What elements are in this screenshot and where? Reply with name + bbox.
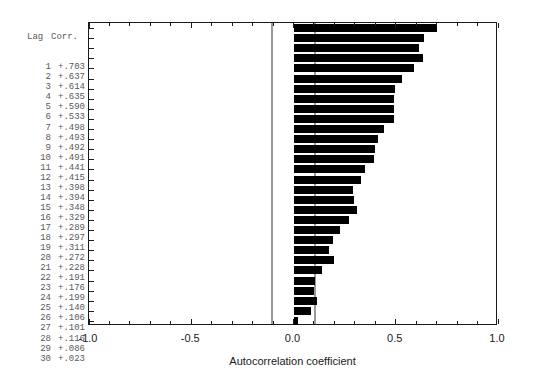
bar-lag-23 <box>294 246 330 254</box>
y-tick <box>89 220 94 221</box>
x-tick-bottom <box>89 319 90 324</box>
y-tick <box>89 38 94 39</box>
x-tick-top <box>129 23 130 26</box>
cell-lag: 19 <box>29 243 51 253</box>
cell-corr: +.498 <box>51 123 85 133</box>
table-row: 4+.635 <box>0 92 88 102</box>
cell-corr: +.106 <box>51 313 85 323</box>
y-tick <box>89 291 94 292</box>
cell-lag: 23 <box>29 283 51 293</box>
x-tick-top <box>395 23 396 28</box>
x-tick-top <box>211 23 212 26</box>
cell-lag: 24 <box>29 293 51 303</box>
x-tick-bottom <box>477 321 478 324</box>
y-tick <box>89 109 94 110</box>
x-tick-bottom <box>252 321 253 324</box>
bar-lag-19 <box>294 206 358 214</box>
y-tick <box>89 48 94 49</box>
cell-corr: +.272 <box>51 253 85 263</box>
x-tick-bottom <box>354 321 355 324</box>
x-tick-top <box>293 23 294 28</box>
column-header-lag: Lag <box>25 32 49 42</box>
x-axis-title: Autocorrelation coefficient <box>88 355 497 367</box>
y-tick <box>89 230 94 231</box>
bar-lag-27 <box>294 287 315 295</box>
table-row: 21+.228 <box>0 263 88 273</box>
plot-area <box>89 23 496 324</box>
y-tick <box>89 119 94 120</box>
table-row: 30+.023 <box>0 354 88 364</box>
cell-corr: +.614 <box>51 82 85 92</box>
bar-lag-9 <box>294 105 395 113</box>
cell-corr: +.703 <box>51 62 85 72</box>
table-row: 20+.272 <box>0 253 88 263</box>
bar-lag-24 <box>294 256 335 264</box>
cell-corr: +.191 <box>51 273 85 283</box>
bar-lag-15 <box>294 165 365 173</box>
x-tick-top <box>191 23 192 28</box>
cell-corr: +.533 <box>51 112 85 122</box>
y-tick <box>89 240 94 241</box>
y-tick <box>89 149 94 150</box>
cell-lag: 13 <box>29 183 51 193</box>
y-tick <box>89 210 94 211</box>
y-tick <box>89 89 94 90</box>
y-tick <box>89 180 94 181</box>
table-row: 17+.289 <box>0 223 88 233</box>
table-row: 7+.498 <box>0 123 88 133</box>
table-row: 28+.116 <box>0 334 88 344</box>
cell-lag: 11 <box>29 163 51 173</box>
bar-lag-4 <box>294 54 424 62</box>
cell-corr: +.590 <box>51 102 85 112</box>
table-row: 18+.297 <box>0 233 88 243</box>
x-tick-top <box>313 23 314 26</box>
x-tick-label: -1.0 <box>79 332 98 344</box>
cell-corr: +.491 <box>51 153 85 163</box>
x-tick-bottom <box>334 321 335 324</box>
x-tick-top <box>252 23 253 26</box>
x-tick-bottom <box>375 321 376 324</box>
y-tick <box>89 129 94 130</box>
x-tick-bottom <box>395 319 396 324</box>
x-tick-top <box>354 23 355 26</box>
cell-lag: 14 <box>29 193 51 203</box>
x-tick-label: 0.0 <box>285 332 300 344</box>
cell-lag: 1 <box>29 62 51 72</box>
cell-corr: +.086 <box>51 344 85 354</box>
cell-corr: +.329 <box>51 213 85 223</box>
y-tick <box>89 281 94 282</box>
x-tick-bottom <box>457 321 458 324</box>
y-tick <box>89 250 94 251</box>
y-tick <box>89 79 94 80</box>
bar-lag-3 <box>294 44 420 52</box>
cell-lag: 7 <box>29 123 51 133</box>
x-tick-bottom <box>191 319 192 324</box>
x-tick-bottom <box>436 321 437 324</box>
x-tick-top <box>375 23 376 26</box>
cell-corr: +.228 <box>51 263 85 273</box>
table-row: 24+.199 <box>0 293 88 303</box>
x-tick-top <box>457 23 458 26</box>
bar-lag-18 <box>294 196 355 204</box>
cell-corr: +.140 <box>51 303 85 313</box>
x-tick-bottom <box>211 321 212 324</box>
x-tick-bottom <box>498 319 499 324</box>
cell-lag: 8 <box>29 133 51 143</box>
table-row: 25+.140 <box>0 303 88 313</box>
bar-lag-26 <box>294 277 316 285</box>
y-tick <box>89 190 94 191</box>
x-tick-top <box>150 23 151 26</box>
cell-corr: +.492 <box>51 143 85 153</box>
bar-lag-12 <box>294 135 379 143</box>
bar-lag-16 <box>294 176 361 184</box>
cell-lag: 18 <box>29 233 51 243</box>
confidence-bound-line-lower <box>271 23 273 324</box>
cell-lag: 21 <box>29 263 51 273</box>
y-tick <box>89 58 94 59</box>
x-tick-bottom <box>109 321 110 324</box>
x-tick-bottom <box>273 321 274 324</box>
table-row: 26+.106 <box>0 313 88 323</box>
table-row: 8+.493 <box>0 133 88 143</box>
cell-lag: 17 <box>29 223 51 233</box>
y-tick <box>89 169 94 170</box>
